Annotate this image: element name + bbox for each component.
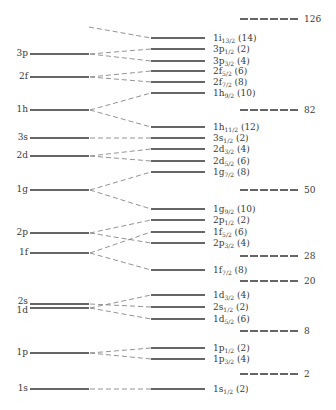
- magic-number-2: 2: [304, 369, 310, 379]
- connector-3p-3_2: [90, 54, 151, 61]
- split-label-1p-3_2: 1p3/2 (4): [213, 354, 250, 367]
- connector-3p-1_2: [90, 49, 151, 54]
- level-label-2p: 2p: [17, 227, 29, 237]
- level-label-1h: 1h: [16, 104, 28, 114]
- connector-2f-5_2: [90, 71, 151, 77]
- connector-2p-1_2: [90, 220, 151, 233]
- split-label-2p-3_2: 2p3/2 (4): [213, 238, 250, 251]
- magic-number-28: 28: [304, 251, 315, 261]
- unperturbed-levels: [30, 54, 89, 389]
- level-label-1f: 1f: [19, 247, 28, 257]
- split-levels: [151, 38, 205, 389]
- connector-1i-13_2: [89, 27, 151, 38]
- level-label-3s: 3s: [18, 132, 28, 142]
- magic-number-8: 8: [304, 326, 310, 336]
- magic-number-20: 20: [304, 276, 315, 286]
- magic-number-126: 126: [304, 14, 321, 24]
- level-label-2f: 2f: [19, 71, 28, 81]
- connector-1h-11_2: [90, 110, 151, 127]
- connector-2d-3_2: [90, 149, 151, 156]
- connector-2s-1_2: [90, 304, 151, 307]
- splitting-connectors: [89, 27, 151, 389]
- connector-1d-5_2: [90, 308, 151, 319]
- level-label-2d: 2d: [17, 150, 29, 160]
- level-label-1g: 1g: [17, 184, 29, 194]
- connector-2p-3_2: [90, 233, 151, 243]
- connector-1d-3_2: [90, 295, 151, 308]
- shell-model-diagram: [0, 0, 336, 410]
- connector-1f-5_2: [90, 232, 151, 253]
- level-label-1p: 1p: [17, 347, 29, 357]
- connector-1f-7_2: [90, 253, 151, 270]
- level-label-1s: 1s: [18, 383, 28, 393]
- level-label-1d: 1d: [17, 305, 29, 315]
- split-label-1s-1_2: 1s1/2 (2): [213, 384, 249, 397]
- magic-number-82: 82: [304, 105, 315, 115]
- connector-2d-5_2: [90, 156, 151, 161]
- split-label-1f-7_2: 1f7/2 (8): [213, 265, 247, 278]
- split-label-1g-7_2: 1g7/2 (8): [213, 167, 250, 180]
- magic-number-50: 50: [304, 185, 315, 195]
- connector-1g-9_2: [90, 190, 151, 209]
- connector-1h-9_2: [90, 93, 151, 110]
- connector-1p-1_2: [90, 348, 151, 353]
- connector-1p-3_2: [90, 353, 151, 359]
- split-label-1d-5_2: 1d5/2 (6): [213, 314, 250, 327]
- level-label-3p: 3p: [17, 48, 29, 58]
- connector-1g-7_2: [90, 172, 151, 190]
- connector-2f-7_2: [90, 77, 151, 82]
- split-label-1h-9_2: 1h9/2 (10): [213, 88, 256, 101]
